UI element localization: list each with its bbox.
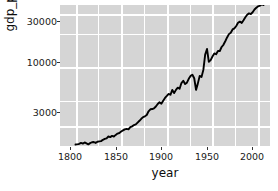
xtick-mark-1900 [161,147,162,150]
ytick-mark-30000 [57,21,60,22]
xtick-label-1850: 1850 [104,152,128,162]
xtick-label-1800: 1800 [58,152,82,162]
xtick-mark-2000 [252,147,253,150]
major-gridlines [60,5,270,147]
ytick-label-3000: 3000 [33,108,57,118]
xtick-mark-1850 [116,147,117,150]
xtick-mark-1800 [70,147,71,150]
xtick-label-1900: 1900 [149,152,173,162]
plot-panel [60,5,270,147]
plot-area [60,5,270,147]
xtick-label-2000: 2000 [240,152,264,162]
x-axis-title: year [60,166,270,180]
ytick-mark-10000 [57,62,60,63]
ytick-mark-3000 [57,112,60,113]
ytick-label-30000: 30000 [27,17,57,27]
ytick-label-10000: 10000 [27,58,57,68]
chart-root: 30000 10000 3000 1800 1850 1900 1950 200… [0,0,278,191]
xtick-label-1950: 1950 [195,152,219,162]
y-axis-title: gdp_pc [2,0,18,81]
xtick-mark-1950 [207,147,208,150]
